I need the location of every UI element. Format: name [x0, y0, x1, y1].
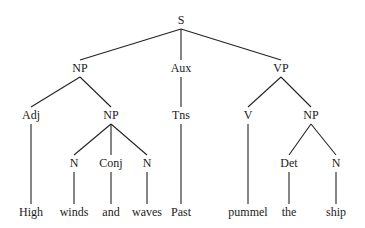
node-label-n1: N — [70, 157, 79, 169]
node-label-np3: NP — [303, 109, 318, 121]
edge-NP1-NP2 — [80, 77, 111, 107]
node-label-tns: Tns — [172, 109, 190, 121]
leaf-word-w_waves: waves — [132, 206, 162, 218]
syntax-tree-diagram: SNPAuxVPAdjNPTnsVNPNConjNDetNHighwindsan… — [0, 0, 365, 228]
edge-VP-V — [248, 77, 281, 107]
node-label-det: Det — [280, 157, 297, 169]
edge-S-NP1 — [80, 29, 181, 60]
leaf-word-w_pummel: pummel — [228, 206, 267, 218]
node-label-s: S — [178, 14, 185, 26]
edge-S-VP — [181, 29, 281, 60]
edge-NP3-Det — [289, 124, 311, 155]
edge-NP1-Adj — [31, 77, 80, 107]
node-label-np2: NP — [103, 109, 118, 121]
node-label-conj: Conj — [99, 157, 122, 169]
leaf-word-w_the: the — [282, 206, 297, 218]
leaf-word-w_and: and — [102, 206, 119, 218]
leaf-word-w_high: High — [19, 206, 43, 218]
leaf-word-w_ship: ship — [326, 206, 346, 218]
leaf-word-w_winds: winds — [60, 206, 89, 218]
leaf-word-w_past: Past — [171, 206, 191, 218]
node-label-n3: N — [332, 157, 341, 169]
node-label-aux: Aux — [171, 62, 192, 74]
node-label-vp: VP — [273, 62, 288, 74]
node-label-v: V — [244, 109, 253, 121]
node-label-n2: N — [143, 157, 152, 169]
edge-VP-NP3 — [281, 77, 311, 107]
edge-NP2-N1 — [74, 124, 111, 155]
edge-NP3-N3 — [311, 124, 336, 155]
node-label-adj: Adj — [22, 109, 40, 121]
edge-NP2-N2 — [111, 124, 147, 155]
node-label-np1: NP — [72, 62, 87, 74]
